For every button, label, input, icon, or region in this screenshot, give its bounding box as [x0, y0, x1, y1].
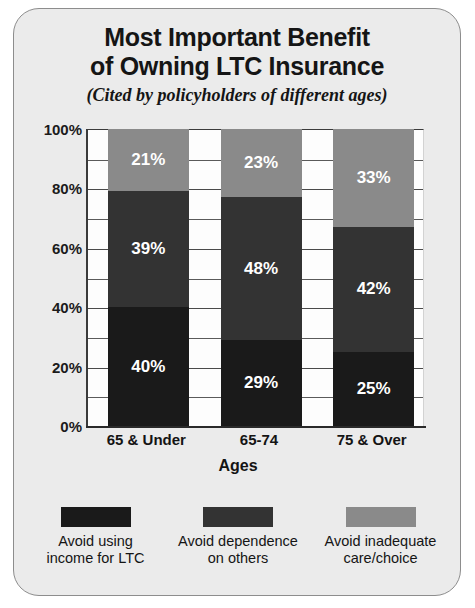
bar-stack: 33%42%25%	[333, 129, 414, 426]
x-axis-category-label: 65-74	[199, 431, 319, 448]
legend-label: Avoid using income for LTC	[28, 533, 163, 567]
legend-swatch	[61, 507, 131, 527]
x-axis-category-labels: 65 & Under65-7475 & Over	[86, 431, 424, 455]
legend-label: Avoid inadequate care/choice	[313, 533, 448, 567]
bar-segment: 33%	[333, 129, 414, 227]
bar-segment-value-label: 23%	[244, 153, 278, 173]
bar-segment-value-label: 39%	[131, 239, 165, 259]
bar-stack: 21%39%40%	[108, 129, 189, 426]
y-axis-tick-label: 80%	[20, 180, 82, 197]
bar-segment-value-label: 40%	[131, 357, 165, 377]
legend-item[interactable]: Avoid inadequate care/choice	[313, 507, 448, 567]
chart-legend: Avoid using income for LTCAvoid dependen…	[28, 507, 448, 567]
plot-area: 21%39%40%23%48%29%33%42%25%	[86, 129, 424, 426]
bar-segment: 48%	[221, 197, 302, 340]
x-axis-title: Ages	[14, 457, 462, 475]
chart-card: Most Important Benefit of Owning LTC Ins…	[13, 8, 461, 596]
y-axis-tick-label: 100%	[20, 121, 82, 138]
bar-segment-value-label: 25%	[357, 379, 391, 399]
legend-item[interactable]: Avoid dependence on others	[171, 507, 306, 567]
y-axis-tick-label: 60%	[20, 239, 82, 256]
bar-segment-value-label: 42%	[357, 279, 391, 299]
y-axis-tick-label: 40%	[20, 299, 82, 316]
bar-segment: 42%	[333, 227, 414, 352]
y-axis-tick-labels: 0%20%40%60%80%100%	[14, 129, 82, 426]
bar-segment: 25%	[333, 352, 414, 426]
legend-swatch	[203, 507, 273, 527]
bar-segment: 29%	[221, 340, 302, 426]
legend-swatch	[346, 507, 416, 527]
x-axis-category-label: 65 & Under	[86, 431, 206, 448]
y-axis-tick-label: 20%	[20, 358, 82, 375]
y-axis-tick-label: 0%	[20, 418, 82, 435]
bar-segment: 39%	[108, 191, 189, 307]
bar-segment: 23%	[221, 129, 302, 197]
bar-segment: 40%	[108, 307, 189, 426]
x-axis-category-label: 75 & Over	[312, 431, 432, 448]
legend-label: Avoid dependence on others	[171, 533, 306, 567]
bar-segment: 21%	[108, 129, 189, 191]
bar-segment-value-label: 21%	[131, 150, 165, 170]
bar-stack: 23%48%29%	[221, 129, 302, 426]
legend-item[interactable]: Avoid using income for LTC	[28, 507, 163, 567]
bar-segment-value-label: 48%	[244, 259, 278, 279]
bar-segment-value-label: 29%	[244, 373, 278, 393]
bar-segment-value-label: 33%	[357, 168, 391, 188]
x-axis-line	[86, 426, 426, 428]
